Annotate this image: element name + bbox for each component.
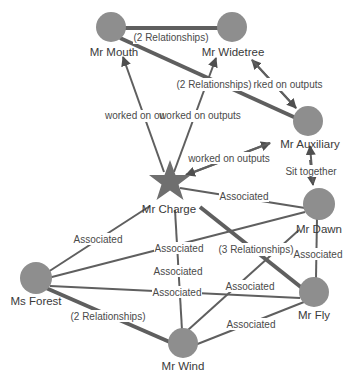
edge-label-wind-dawn: Associated [226,281,275,292]
node-forest-circle[interactable] [20,262,52,294]
node-dawn[interactable]: Mr Dawn [296,188,342,235]
node-fly-circle[interactable] [299,277,329,307]
node-fly[interactable]: Mr Fly [298,277,330,321]
edge-label-dawn-fly: Associated [294,249,343,260]
node-mouth-circle[interactable] [96,12,126,42]
node-auxiliary[interactable]: Mr Auxiliary [280,106,340,150]
node-auxiliary-label: Mr Auxiliary [280,138,340,150]
edge-label-charge-fly: (3 Relationships) [218,244,293,255]
node-dawn-label: Mr Dawn [296,223,342,235]
node-dawn-circle[interactable] [303,188,335,220]
node-wind[interactable]: Mr Wind [162,328,205,372]
edge-label-charge-forest: Associated [74,234,123,245]
edge-label-wind-fly: Associated [227,319,276,330]
node-widetree-circle[interactable] [217,12,247,42]
edge-label-forest-wind: (2 Relationships) [70,311,145,322]
edge-label-charge-dawn: Associated [220,191,269,202]
edge-label-forest-fly: Associated [153,287,202,298]
edge-label-mouth-auxiliary: (2 Relationships) [176,79,251,90]
edge-label-charge-wind: Associated [154,266,203,277]
node-charge-star-icon[interactable] [149,160,191,200]
node-fly-label: Mr Fly [298,309,330,321]
node-wind-circle[interactable] [168,328,198,358]
edge-label-forest-dawn: Associated [155,243,204,254]
node-charge[interactable]: Mr Charge [142,160,196,215]
edge-label-charge-widetree: worked on outputs [158,110,241,121]
node-auxiliary-circle[interactable] [293,106,323,136]
edge-label-mouth-widetree: (2 Relationships) [133,32,208,43]
node-forest-label: Ms Forest [10,295,62,307]
edge-label-charge-mouth: worked on ou [104,110,165,121]
node-charge-label: Mr Charge [142,203,196,215]
node-mouth-label: Mr Mouth [90,46,139,58]
node-widetree-label: Mr Widetree [202,46,265,58]
edge-label-auxiliary-dawn: Sit together [285,166,337,177]
node-wind-label: Mr Wind [162,360,205,372]
edge-label-auxiliary-widetree: rked on outputs [254,79,323,90]
edge-label-charge-auxiliary: worked on outputs [187,153,270,164]
node-mouth[interactable]: Mr Mouth [90,12,139,58]
network-diagram: (2 Relationships) (2 Relationships) work… [0,0,350,384]
